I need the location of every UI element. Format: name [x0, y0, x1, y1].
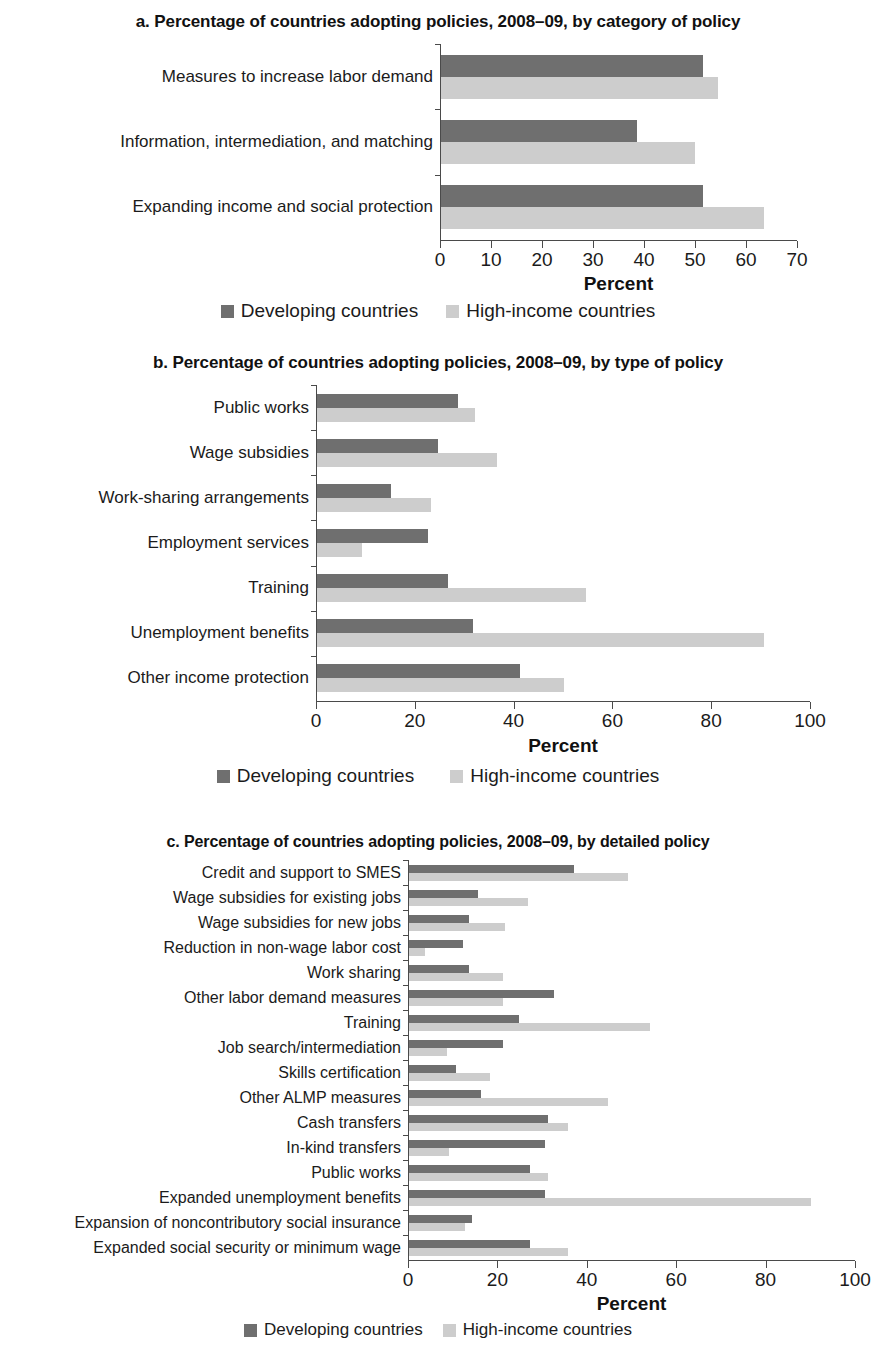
bar-high-income [441, 142, 695, 164]
bar-developing [409, 1065, 456, 1073]
bar-high-income [317, 498, 431, 512]
legend-item-developing: Developing countries [221, 300, 418, 322]
bar-row: Wage subsidies for new jobs [0, 910, 876, 935]
bar-high-income [409, 873, 628, 881]
bar-high-income [409, 1098, 608, 1106]
bar-row: Unemployment benefits [0, 611, 876, 656]
bar-developing [409, 1240, 530, 1248]
plot-area [408, 985, 858, 1010]
legend-item-high-income: High-income countries [446, 300, 655, 322]
x-tick [676, 1261, 677, 1268]
plot-area [408, 1010, 858, 1035]
bar-row: Measures to increase labor demand [0, 44, 876, 109]
bar-pair [409, 1085, 858, 1110]
bar-pair [409, 960, 858, 985]
category-label: In-kind transfers [0, 1139, 408, 1157]
bar-row: Expansion of noncontributory social insu… [0, 1210, 876, 1235]
bar-row: Work sharing [0, 960, 876, 985]
bar-high-income [441, 77, 718, 99]
bar-row: Credit and support to SMES [0, 860, 876, 885]
category-label: Skills certification [0, 1064, 408, 1082]
x-tick-label: 0 [403, 1269, 414, 1291]
category-label: Measures to increase labor demand [0, 67, 440, 87]
bar-row: Wage subsidies [0, 430, 876, 475]
bar-high-income [409, 1223, 465, 1231]
legend-item-developing: Developing countries [244, 1320, 423, 1340]
bar-high-income [409, 898, 528, 906]
plot-area [440, 44, 876, 109]
plot-area [316, 656, 816, 701]
panel-c-chart: Credit and support to SMES Wage subsidie… [0, 860, 876, 1260]
bar-high-income [409, 1123, 568, 1131]
bar-pair [409, 885, 858, 910]
x-tick [491, 241, 492, 248]
bar-row: Public works [0, 1160, 876, 1185]
bar-row: Expanding income and social protection [0, 175, 876, 240]
legend-swatch-high-income-icon [443, 1324, 456, 1337]
plot-area [316, 520, 816, 565]
bar-developing [409, 890, 478, 898]
x-tick-label: 30 [582, 249, 603, 271]
bar-developing [409, 1190, 545, 1198]
bar-row: Other labor demand measures [0, 985, 876, 1010]
bar-developing [441, 55, 703, 77]
plot-area [408, 1185, 858, 1210]
x-tick [695, 241, 696, 248]
x-tick-label: 20 [487, 1269, 508, 1291]
x-tick [746, 241, 747, 248]
legend-item-developing: Developing countries [217, 765, 414, 787]
x-tick [766, 1261, 767, 1268]
x-tick-label: 0 [311, 710, 322, 732]
bar-pair [409, 1010, 858, 1035]
panel-b-axis-title: Percent [316, 735, 810, 757]
category-label: Wage subsidies [0, 443, 316, 463]
plot-area [408, 910, 858, 935]
bar-high-income [409, 1173, 548, 1181]
bar-row: Skills certification [0, 1060, 876, 1085]
x-tick-label: 100 [839, 1269, 871, 1291]
legend-label-high-income: High-income countries [463, 1320, 632, 1340]
x-tick-label: 0 [435, 249, 446, 271]
x-tick [855, 1261, 856, 1268]
bar-developing [317, 664, 520, 678]
bar-pair [317, 385, 816, 430]
bar-high-income [317, 588, 586, 602]
bar-pair [317, 656, 816, 701]
category-label: Training [0, 578, 316, 598]
category-label: Job search/intermediation [0, 1039, 408, 1057]
bar-pair [409, 1135, 858, 1160]
bar-high-income [409, 973, 503, 981]
bar-developing [409, 990, 554, 998]
bar-pair [317, 430, 816, 475]
bar-developing [409, 865, 574, 873]
bar-pair [409, 1185, 858, 1210]
bar-developing [317, 439, 438, 453]
bar-developing [317, 484, 391, 498]
plot-area [316, 566, 816, 611]
x-tick [587, 1261, 588, 1268]
bar-row: In-kind transfers [0, 1135, 876, 1160]
x-tick-label: 70 [786, 249, 807, 271]
bar-pair [441, 175, 876, 240]
plot-area [440, 175, 876, 240]
x-tick [797, 241, 798, 248]
bar-pair [409, 935, 858, 960]
bar-pair [409, 985, 858, 1010]
panel-b-x-axis: 0 20 40 60 80 100 [316, 701, 810, 702]
category-label: Expanded social security or minimum wage [0, 1239, 408, 1257]
bar-developing [409, 1140, 545, 1148]
legend-swatch-high-income-icon [450, 770, 463, 783]
bar-pair [317, 475, 816, 520]
bar-row: Training [0, 1010, 876, 1035]
plot-area [408, 885, 858, 910]
bar-high-income [409, 1198, 811, 1206]
x-tick [408, 1261, 409, 1268]
bar-developing [409, 940, 463, 948]
x-tick-label: 40 [576, 1269, 597, 1291]
plot-area [408, 1035, 858, 1060]
panel-c-axis-title: Percent [408, 1293, 855, 1315]
x-tick [593, 241, 594, 248]
x-tick-label: 40 [633, 249, 654, 271]
bar-pair [317, 611, 816, 656]
category-label: Employment services [0, 533, 316, 553]
